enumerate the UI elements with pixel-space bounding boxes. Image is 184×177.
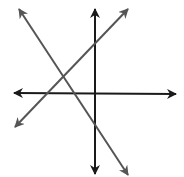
diagonal-descending-line-arrow-icon (19, 9, 128, 175)
lines-group (14, 9, 176, 175)
line-diagram (0, 0, 184, 177)
diagonal-ascending-line-arrow-icon (15, 9, 128, 127)
